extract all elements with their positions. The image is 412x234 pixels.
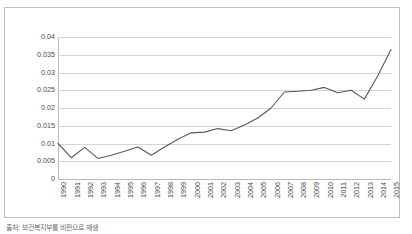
y-tick-label: 0.03: [7, 69, 55, 76]
x-tick-label: 1991: [74, 182, 81, 198]
x-tick-label: 2008: [300, 182, 307, 198]
x-tick-label: 1993: [100, 182, 107, 198]
gridline: [58, 179, 391, 180]
x-tick-label: 2005: [260, 182, 267, 198]
x-tick-label: 1995: [127, 182, 134, 198]
x-tick-label: 1990: [60, 182, 67, 198]
chart-frame: 00.0050.010.0150.020.0250.030.0350.04 19…: [4, 7, 400, 218]
x-tick-label: 2000: [194, 182, 201, 198]
x-tick-label: 2011: [340, 182, 347, 197]
x-tick-label: 1997: [154, 182, 161, 198]
source-caption: 출처: 보건복지부를 비판으로 재생: [6, 224, 98, 232]
x-tick-label: 1994: [114, 182, 121, 198]
x-tick-label: 2004: [247, 182, 254, 198]
x-tick-label: 2001: [207, 182, 214, 198]
x-tick-label: 2006: [274, 182, 281, 198]
y-tick-label: 0.015: [7, 122, 55, 129]
chart-screenshot: 00.0050.010.0150.020.0250.030.0350.04 19…: [0, 0, 412, 234]
x-tick-label: 1999: [180, 182, 187, 198]
y-tick-label: 0.02: [7, 104, 55, 111]
x-tick-label: 2012: [353, 182, 360, 198]
x-tick-label: 2009: [313, 182, 320, 198]
x-tick-label: 2013: [367, 182, 374, 198]
x-tick-label: 2002: [220, 182, 227, 198]
y-tick-label: 0: [7, 175, 55, 182]
x-tick-label: 2007: [287, 182, 294, 198]
x-tick-label: 2015: [393, 182, 400, 198]
y-tick-label: 0.005: [7, 158, 55, 165]
y-tick-label: 0.04: [7, 33, 55, 40]
x-tick-label: 1992: [87, 182, 94, 198]
y-axis-labels: 00.0050.010.0150.020.0250.030.0350.04: [5, 37, 55, 179]
line-series: [58, 37, 391, 179]
y-tick-label: 0.025: [7, 87, 55, 94]
x-tick-label: 1998: [167, 182, 174, 198]
series-polyline: [58, 49, 391, 158]
y-tick-label: 0.035: [7, 51, 55, 58]
y-tick-label: 0.01: [7, 140, 55, 147]
x-tick-label: 1996: [140, 182, 147, 198]
x-tick-label: 2010: [327, 182, 334, 198]
x-tick-label: 2014: [380, 182, 387, 198]
x-axis-labels: 1990199119921993199419951996199719981999…: [58, 182, 391, 216]
plot-area: [58, 37, 391, 179]
x-tick-label: 2003: [234, 182, 241, 198]
